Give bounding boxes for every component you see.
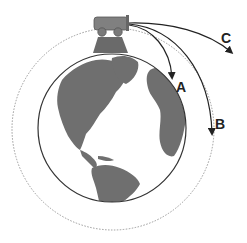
earth-globe-icon <box>38 54 187 214</box>
cannon-pedestal <box>93 37 128 53</box>
newton-cannon-diagram: A B C <box>0 0 247 243</box>
label-b: B <box>215 116 225 132</box>
cannon-icon <box>94 15 129 36</box>
label-c: C <box>221 30 231 46</box>
diagram: A B C <box>0 0 247 243</box>
label-a: A <box>176 79 186 95</box>
